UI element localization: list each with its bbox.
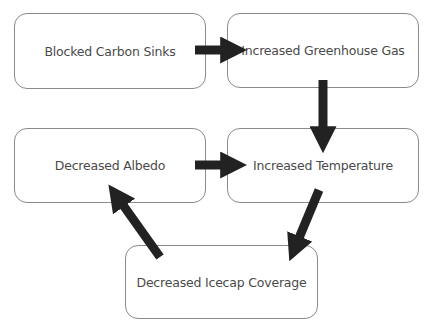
node-label: Decreased Icecap Coverage xyxy=(136,275,306,290)
node-blocked-carbon-sinks: Blocked Carbon Sinks xyxy=(14,13,206,89)
node-increased-greenhouse-gas: Increased Greenhouse Gas xyxy=(227,13,419,88)
node-increased-temperature: Increased Temperature xyxy=(227,128,419,203)
node-label: Increased Temperature xyxy=(253,158,393,173)
node-decreased-icecap-coverage: Decreased Icecap Coverage xyxy=(125,245,318,319)
node-label: Increased Greenhouse Gas xyxy=(241,43,404,58)
node-label: Decreased Albedo xyxy=(55,158,166,173)
node-label: Blocked Carbon Sinks xyxy=(44,44,175,59)
node-decreased-albedo: Decreased Albedo xyxy=(14,128,206,203)
